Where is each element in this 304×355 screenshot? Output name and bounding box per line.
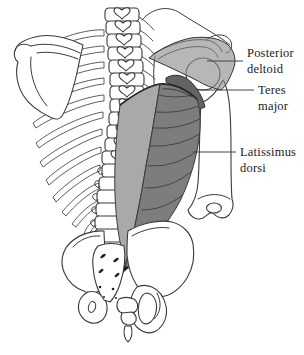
anatomy-figure: Posterior deltoid Teres major Latissimus… [0,0,304,355]
back-muscles-diagram: Posterior deltoid Teres major Latissimus… [0,0,304,355]
